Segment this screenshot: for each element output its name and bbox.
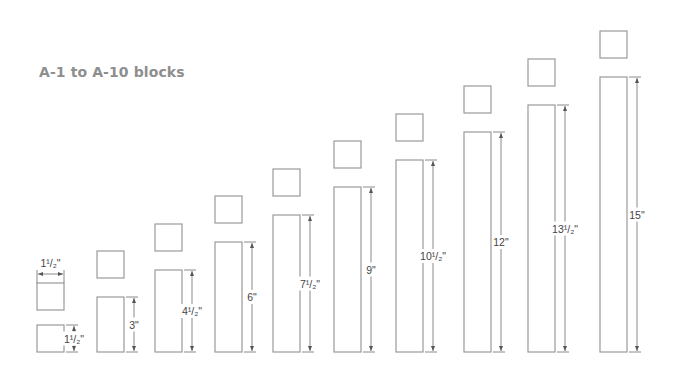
end-view-square [600,31,627,58]
arrow-down-icon [635,346,639,351]
arrow-up-icon [635,78,639,83]
end-view-square [155,224,182,251]
block-a-1 [37,325,64,352]
arrow-down-icon [190,346,194,351]
arrow-up-icon [132,298,136,303]
height-label: 7¹/₂" [300,278,320,290]
block-a-5 [273,215,300,352]
arrow-down-icon [132,346,136,351]
height-label: 15" [629,209,645,221]
arrow-up-icon [190,271,194,276]
arrow-down-icon [369,346,373,351]
arrow-up-icon [499,133,503,138]
arrow-up-icon [72,326,76,331]
arrow-right-icon [58,272,63,276]
block-a-10 [600,77,627,352]
height-label: 4¹/₂" [182,305,202,317]
height-label: 12" [493,236,509,248]
end-view-square [97,251,124,278]
width-label: 1¹/₂" [40,257,60,269]
arrow-down-icon [250,346,254,351]
end-view-square [215,196,242,223]
arrow-up-icon [308,216,312,221]
end-view-square [334,141,361,168]
blocks-diagram: 1¹/₂"1¹/₂"3"4¹/₂"6"7¹/₂"9"10¹/₂"12"13¹/₂… [0,0,677,376]
end-view-square [464,86,491,113]
height-label: 6" [247,291,257,303]
arrow-left-icon [38,272,43,276]
block-a-4 [215,242,242,352]
block-a-9 [528,105,555,352]
end-view-square [528,59,555,86]
block-a-8 [464,132,491,352]
arrow-up-icon [563,106,567,111]
arrow-up-icon [250,243,254,248]
arrow-up-icon [431,161,435,166]
block-a-3 [155,270,182,352]
height-label: 10¹/₂" [420,250,446,262]
arrow-down-icon [431,346,435,351]
arrow-down-icon [72,346,76,351]
arrow-down-icon [563,346,567,351]
end-view-square [273,169,300,196]
block-a-2 [97,297,124,352]
arrow-down-icon [499,346,503,351]
arrow-down-icon [308,346,312,351]
height-label: 1¹/₂" [64,333,84,345]
arrow-up-icon [369,188,373,193]
height-label: 13¹/₂" [552,223,578,235]
block-a-7 [396,160,423,352]
end-view-square [396,114,423,141]
height-label: 3" [129,319,139,331]
end-view-square [37,283,64,310]
block-a-6 [334,187,361,352]
height-label: 9" [366,264,376,276]
